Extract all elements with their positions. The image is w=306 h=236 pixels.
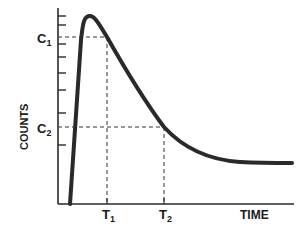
counts-time-chart: COUNTS C1 C2 T1 T2 TIME	[0, 0, 306, 236]
x-axis-ticks	[107, 198, 164, 204]
x-axis-label: TIME	[240, 208, 269, 222]
y-axis-ticks	[58, 16, 66, 145]
c1-label: C1	[37, 31, 51, 48]
y-axis-label: COUNTS	[18, 104, 30, 150]
c2-label: C2	[37, 121, 51, 138]
counts-curve	[70, 16, 292, 204]
t2-label: T2	[159, 207, 172, 224]
t1-label: T1	[102, 207, 115, 224]
